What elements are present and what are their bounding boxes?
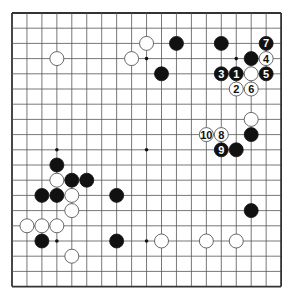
move-number: 9 bbox=[218, 144, 224, 156]
move-number: 8 bbox=[218, 129, 224, 141]
black-stone bbox=[169, 36, 183, 50]
move-number: 1 bbox=[233, 68, 239, 80]
move-number: 6 bbox=[248, 83, 254, 95]
white-stone bbox=[125, 52, 139, 66]
white-stone bbox=[140, 36, 154, 50]
black-stone bbox=[110, 188, 124, 202]
move-number: 7 bbox=[263, 37, 269, 49]
black-stone bbox=[229, 143, 243, 157]
black-stone bbox=[110, 234, 124, 248]
black-stone bbox=[214, 36, 228, 50]
white-stone bbox=[229, 234, 243, 248]
white-stone bbox=[155, 234, 169, 248]
move-number: 4 bbox=[263, 53, 270, 65]
star-point bbox=[234, 57, 238, 61]
white-stone bbox=[65, 204, 79, 218]
white-stone bbox=[199, 234, 213, 248]
white-stone: 10 bbox=[199, 128, 213, 142]
star-point bbox=[145, 239, 149, 243]
move-number: 10 bbox=[200, 129, 212, 141]
black-stone: 5 bbox=[259, 67, 273, 81]
move-number: 2 bbox=[233, 83, 239, 95]
white-stone bbox=[50, 219, 64, 233]
white-stone: 6 bbox=[244, 82, 258, 96]
black-stone: 9 bbox=[214, 143, 228, 157]
star-point bbox=[145, 148, 149, 152]
white-stone bbox=[244, 112, 258, 126]
black-stone bbox=[50, 188, 64, 202]
black-stone bbox=[244, 52, 258, 66]
black-stone bbox=[35, 234, 49, 248]
black-stone: 7 bbox=[259, 36, 273, 50]
white-stone bbox=[65, 188, 79, 202]
star-point bbox=[55, 148, 59, 152]
white-stone bbox=[244, 67, 258, 81]
white-stone: 2 bbox=[229, 82, 243, 96]
black-stone bbox=[35, 188, 49, 202]
go-board: 74315261089 bbox=[0, 0, 292, 300]
move-number: 3 bbox=[218, 68, 224, 80]
white-stone: 8 bbox=[214, 128, 228, 142]
white-stone bbox=[35, 219, 49, 233]
white-stone: 4 bbox=[259, 52, 273, 66]
star-point bbox=[55, 239, 59, 243]
black-stone bbox=[80, 173, 94, 187]
black-stone bbox=[50, 158, 64, 172]
black-stone: 1 bbox=[229, 67, 243, 81]
black-stone bbox=[155, 67, 169, 81]
white-stone bbox=[50, 173, 64, 187]
black-stone bbox=[244, 204, 258, 218]
black-stone: 3 bbox=[214, 67, 228, 81]
move-number: 5 bbox=[263, 68, 269, 80]
white-stone bbox=[65, 249, 79, 263]
white-stone bbox=[50, 52, 64, 66]
star-point bbox=[145, 57, 149, 61]
black-stone bbox=[244, 128, 258, 142]
white-stone bbox=[20, 219, 34, 233]
black-stone bbox=[65, 173, 79, 187]
